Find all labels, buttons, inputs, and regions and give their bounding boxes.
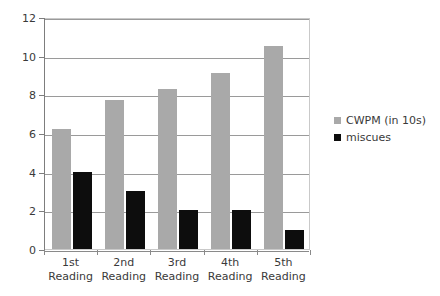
y-axis-tick: [39, 57, 44, 58]
legend-item[interactable]: miscues: [334, 129, 426, 146]
y-axis-label: 0: [0, 245, 36, 256]
x-axis-category-label: 5thReading: [257, 256, 310, 284]
x-axis-category-label: 3rdReading: [150, 256, 203, 284]
x-axis-category-label-line: 1st: [44, 256, 97, 270]
y-axis-tick: [39, 173, 44, 174]
x-axis-category-label-line: 2nd: [97, 256, 150, 270]
bar-group: [158, 19, 198, 249]
x-axis-tick: [150, 250, 151, 255]
chart-legend: CWPM (in 10s)miscues: [334, 112, 426, 146]
bar: [211, 73, 230, 249]
plot-frame: [44, 18, 310, 250]
bar: [52, 129, 71, 249]
y-axis-label: 4: [0, 168, 36, 179]
bar: [264, 46, 283, 249]
x-axis-category-label: 1stReading: [44, 256, 97, 284]
y-axis-tick: [39, 134, 44, 135]
bar-group: [211, 19, 251, 249]
y-axis-label: 2: [0, 206, 36, 217]
bar: [105, 100, 124, 249]
gridline: [45, 251, 309, 252]
y-axis-label: 12: [0, 13, 36, 24]
legend-item-label: miscues: [346, 132, 391, 143]
bar: [73, 172, 92, 249]
bar-group: [105, 19, 145, 249]
x-axis-category-label-line: 4th: [204, 256, 257, 270]
bar-chart: 024681012 1stReading2ndReading3rdReading…: [0, 0, 440, 296]
x-axis-category-label-line: Reading: [204, 270, 257, 284]
x-axis-category-label-line: Reading: [97, 270, 150, 284]
bar: [232, 210, 251, 249]
bar: [158, 89, 177, 249]
x-axis-category-label: 4thReading: [204, 256, 257, 284]
bar-group: [52, 19, 92, 249]
legend-swatch-icon: [334, 117, 341, 124]
x-axis-tick: [204, 250, 205, 255]
plot-area: [45, 19, 309, 249]
y-axis-label: 10: [0, 52, 36, 63]
x-axis-tick: [97, 250, 98, 255]
legend-item[interactable]: CWPM (in 10s): [334, 112, 426, 129]
x-axis-tick: [44, 250, 45, 255]
x-axis-category-label-line: 3rd: [150, 256, 203, 270]
x-axis-category-label-line: Reading: [257, 270, 310, 284]
y-axis-label: 6: [0, 129, 36, 140]
bar: [179, 210, 198, 249]
y-axis-tick: [39, 18, 44, 19]
bar: [126, 191, 145, 249]
bar-group: [264, 19, 304, 249]
legend-item-label: CWPM (in 10s): [346, 115, 426, 126]
y-axis-line: [44, 18, 45, 250]
x-axis-category-label-line: Reading: [150, 270, 203, 284]
y-axis-tick: [39, 95, 44, 96]
x-axis-tick: [310, 250, 311, 255]
bar: [285, 230, 304, 249]
x-axis-category-label-line: 5th: [257, 256, 310, 270]
x-axis-category-label: 2ndReading: [97, 256, 150, 284]
x-axis-category-label-line: Reading: [44, 270, 97, 284]
y-axis-label: 8: [0, 90, 36, 101]
x-axis-tick: [257, 250, 258, 255]
legend-swatch-icon: [334, 134, 341, 141]
y-axis-tick: [39, 211, 44, 212]
